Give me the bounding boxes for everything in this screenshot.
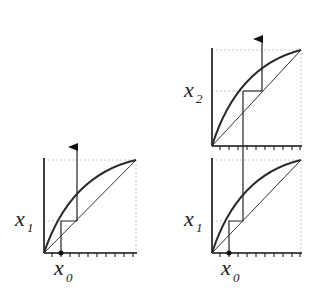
- y-label-x: x: [183, 77, 194, 102]
- x-label-x: x: [220, 255, 231, 280]
- x-label-sub: 0: [233, 270, 240, 285]
- panel-left: x 1 x 0: [14, 147, 137, 285]
- y-label-sub: 1: [196, 220, 203, 235]
- cobweb-path: [61, 221, 77, 253]
- y-label-sub: 1: [27, 220, 34, 235]
- x-label-sub: 0: [66, 270, 73, 285]
- x-label-x: x: [53, 255, 64, 280]
- identity-line: [212, 160, 301, 253]
- cobweb-diagram: x 1 x 0 x 2: [0, 0, 318, 288]
- cobweb-path: [229, 221, 243, 253]
- y-label-sub: 2: [196, 91, 203, 106]
- y-label-x: x: [183, 206, 194, 231]
- identity-line: [44, 160, 136, 253]
- identity-line: [212, 50, 301, 146]
- y-label-x: x: [14, 206, 25, 231]
